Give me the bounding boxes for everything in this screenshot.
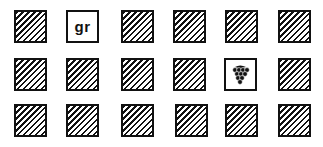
hatched-tile-r0c0 — [14, 10, 47, 43]
tile-grid: gr — [0, 0, 323, 147]
hatched-tile-r1c1 — [66, 58, 99, 91]
hatched-tile-r0c2 — [121, 10, 154, 43]
hatched-tile-r1c5 — [278, 58, 311, 91]
grapes-icon — [226, 60, 255, 89]
hatched-tile-r2c5 — [278, 104, 311, 137]
hatched-tile-r2c0 — [14, 104, 47, 137]
hatched-tile-r2c1 — [66, 104, 99, 137]
tile-label: gr — [68, 18, 97, 35]
hatched-tile-r0c4 — [225, 10, 258, 43]
hatched-tile-r1c0 — [14, 58, 47, 91]
hatched-tile-r0c3 — [173, 10, 206, 43]
hatched-tile-r0c5 — [278, 10, 311, 43]
grapes-tile-r1c4 — [224, 58, 257, 91]
hatched-tile-r1c3 — [173, 58, 206, 91]
hatched-tile-r2c2 — [121, 104, 154, 137]
hatched-tile-r1c2 — [121, 58, 154, 91]
hatched-tile-r2c4 — [225, 104, 258, 137]
hatched-tile-r2c3 — [175, 104, 208, 137]
text-tile-r0c1: gr — [66, 10, 99, 43]
